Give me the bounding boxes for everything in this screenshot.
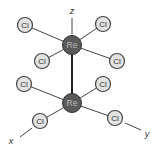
atom-label: Cl bbox=[36, 117, 44, 126]
cl-2-atom: Cl bbox=[96, 17, 111, 32]
cl-3-atom: Cl bbox=[35, 54, 50, 69]
atom-label: Re bbox=[67, 98, 78, 108]
atom-label: Cl bbox=[20, 80, 28, 89]
atom-label: Cl bbox=[111, 114, 119, 123]
cl-8-atom: Cl bbox=[108, 111, 123, 126]
atom-label: Cl bbox=[21, 21, 29, 30]
re2cl8-diagram: zxy ReReClClClClClClClCl bbox=[0, 0, 160, 150]
cl-7-atom: Cl bbox=[33, 114, 48, 129]
re-top-atom: Re bbox=[63, 36, 82, 55]
cl-4-atom: Cl bbox=[110, 54, 125, 69]
atom-label: Cl bbox=[113, 57, 121, 66]
z-axis-label: z bbox=[69, 6, 75, 16]
atom-label: Cl bbox=[99, 20, 107, 29]
atoms: ReReClClClClClClClCl bbox=[17, 17, 125, 129]
y-axis-label: y bbox=[144, 129, 150, 139]
y-axis-line bbox=[125, 123, 141, 130]
atom-label: Cl bbox=[99, 80, 107, 89]
cl-1-atom: Cl bbox=[18, 18, 33, 33]
cl-6-atom: Cl bbox=[96, 77, 111, 92]
re-bottom-atom: Re bbox=[63, 94, 82, 113]
x-axis-line bbox=[20, 128, 32, 137]
atom-label: Cl bbox=[38, 57, 46, 66]
cl-5-atom: Cl bbox=[17, 77, 32, 92]
atom-label: Re bbox=[67, 40, 78, 50]
x-axis-label: x bbox=[8, 136, 14, 146]
